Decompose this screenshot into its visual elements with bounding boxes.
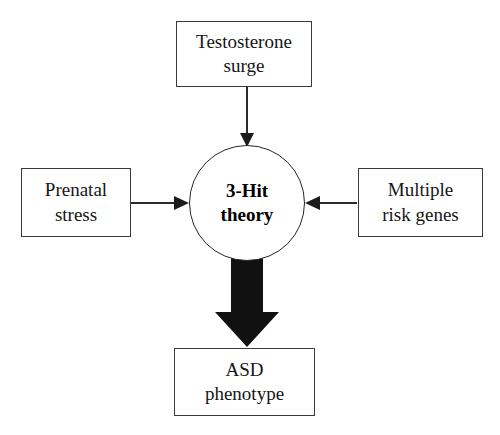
- node-testosterone-surge[interactable]: Testosterone surge: [176, 21, 312, 87]
- edge-testosterone-to-hub: [240, 87, 254, 147]
- diagram-canvas: Testosterone surge Prenatal stress Multi…: [0, 0, 500, 435]
- node-asd-phenotype[interactable]: ASD phenotype: [174, 348, 315, 416]
- node-three-hit-theory[interactable]: 3-Hit theory: [189, 145, 305, 261]
- node-prenatal-stress-label: Prenatal stress: [41, 178, 111, 227]
- node-testosterone-surge-label: Testosterone surge: [192, 30, 296, 79]
- node-three-hit-theory-label: 3-Hit theory: [221, 179, 274, 227]
- node-asd-phenotype-label: ASD phenotype: [201, 358, 288, 407]
- edge-genes-to-hub: [305, 196, 357, 210]
- edge-prenatal-to-hub: [131, 196, 189, 210]
- node-multiple-risk-genes-label: Multiple risk genes: [378, 178, 463, 227]
- edge-hub-to-asd: [215, 250, 279, 347]
- node-prenatal-stress[interactable]: Prenatal stress: [21, 168, 131, 237]
- node-multiple-risk-genes[interactable]: Multiple risk genes: [358, 168, 483, 237]
